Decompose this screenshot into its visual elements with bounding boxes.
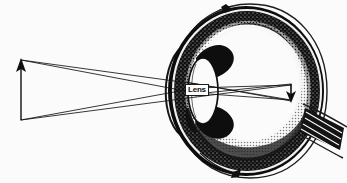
eye-diagram-svg: [0, 0, 347, 183]
lens-label: Lens: [185, 84, 209, 96]
eye-ray-diagram: Lens: [0, 0, 347, 183]
